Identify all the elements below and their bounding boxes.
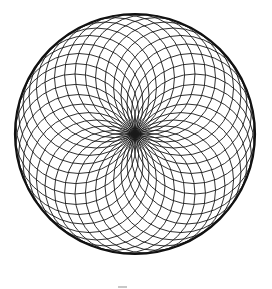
overlapping-circles [15, 14, 255, 254]
rosette-figure [0, 0, 272, 289]
small-mark [118, 286, 127, 288]
